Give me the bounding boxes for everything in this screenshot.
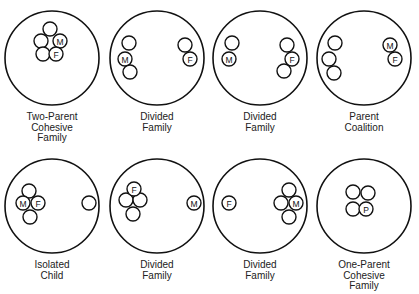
member-circle [274, 196, 288, 210]
member-label: M [292, 199, 299, 209]
diagram-caption: DividedFamily [210, 260, 310, 281]
family-diagram: MF [5, 11, 99, 105]
member-label: F [35, 199, 40, 209]
member-circle [34, 34, 48, 48]
member-circle [277, 64, 291, 78]
member-circle [327, 66, 341, 80]
diagram-caption: Two-ParentCohesiveFamily [2, 112, 102, 144]
diagram-caption: ParentCoalition [314, 112, 414, 133]
caption-line: Family [210, 271, 310, 282]
caption-line: Isolated [2, 260, 102, 271]
member-label: M [386, 41, 393, 51]
caption-line: Family [2, 133, 102, 144]
caption-line: Divided [210, 260, 310, 271]
family-diagram: MF [110, 11, 204, 105]
member-label: F [53, 50, 58, 60]
caption-line: Child [2, 271, 102, 282]
family-diagrams-canvas: MFMFMFMFMFFMFMP [0, 0, 419, 294]
member-label: M [225, 55, 232, 65]
member-circle [23, 210, 37, 224]
member-circle [123, 65, 137, 79]
member-circle [36, 47, 50, 61]
member-circle [322, 52, 336, 66]
family-diagram: MF [213, 11, 307, 105]
member-circle [82, 196, 96, 210]
diagram-caption: DividedFamily [107, 260, 207, 281]
member-circle [43, 22, 57, 36]
family-diagram: P [317, 159, 411, 253]
member-label: F [226, 199, 231, 209]
member-label: M [19, 199, 26, 209]
member-circle [178, 38, 192, 52]
member-circle [346, 202, 360, 216]
member-label: P [363, 205, 369, 215]
member-label: M [56, 37, 63, 47]
diagram-caption: DividedFamily [210, 112, 310, 133]
member-label: F [392, 55, 397, 65]
caption-line: Parent [314, 112, 414, 123]
caption-line: Family [210, 123, 310, 134]
diagram-caption: DividedFamily [107, 112, 207, 133]
diagram-caption: IsolatedChild [2, 260, 102, 281]
caption-line: Coalition [314, 123, 414, 134]
member-label: M [121, 55, 128, 65]
diagram-caption: One-ParentCohesiveFamily [314, 260, 414, 292]
member-circle [361, 186, 375, 200]
caption-line: Divided [210, 112, 310, 123]
member-circle [282, 210, 296, 224]
caption-line: One-Parent [314, 260, 414, 271]
member-label: F [187, 55, 192, 65]
member-circle [122, 36, 136, 50]
caption-line: Two-Parent [2, 112, 102, 123]
member-label: F [131, 185, 136, 195]
family-diagram: FM [110, 159, 204, 253]
caption-line: Family [314, 281, 414, 292]
caption-line: Divided [107, 260, 207, 271]
member-label: F [289, 55, 294, 65]
member-label: M [190, 199, 197, 209]
member-circle [282, 183, 296, 197]
family-diagram: MF [5, 159, 99, 253]
family-diagram: MF [317, 11, 411, 105]
caption-line: Divided [107, 112, 207, 123]
member-circle [328, 36, 342, 50]
member-circle [346, 185, 360, 199]
member-circle [280, 38, 294, 52]
member-circle [126, 207, 140, 221]
member-circle [225, 36, 239, 50]
family-diagram: FM [213, 159, 307, 253]
caption-line: Family [107, 123, 207, 134]
caption-line: Family [107, 271, 207, 282]
